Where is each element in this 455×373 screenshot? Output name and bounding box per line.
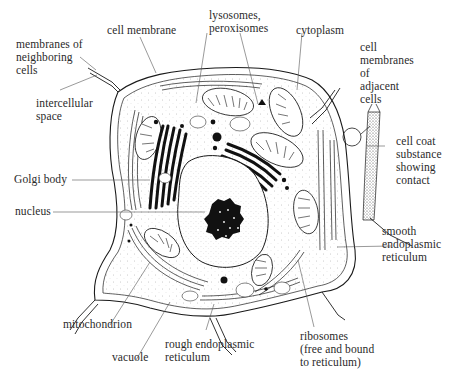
label-mitochondrion: mitochondrion: [63, 318, 132, 331]
label-cell-membrane: cell membrane: [107, 24, 176, 37]
label-ribosomes: ribosomes (free and bound to reticulum): [300, 330, 374, 369]
label-rough-er: rough endoplasmic reticulum: [165, 338, 255, 364]
adjacent-cells-inset: [343, 104, 380, 220]
label-cytoplasm: cytoplasm: [296, 24, 344, 37]
label-neighbor-membranes: membranes of neighboring cells: [16, 38, 83, 77]
label-vacuole: vacuole: [112, 351, 148, 364]
label-nucleus: nucleus: [15, 205, 51, 218]
label-adjacent-cell-membranes: cell membranes of adjacent cells: [360, 41, 414, 106]
cell-diagram: cell membrane lysosomes, peroxisomes cyt…: [0, 0, 455, 373]
label-lysosomes-peroxisomes: lysosomes, peroxisomes: [209, 9, 268, 35]
label-intercellular-space: intercellular space: [36, 97, 93, 123]
label-smooth-er: smooth endoplasmic reticulum: [382, 225, 441, 264]
label-golgi-body: Golgi body: [14, 173, 67, 186]
label-cell-coat: cell coat substance showing contact: [396, 135, 442, 187]
